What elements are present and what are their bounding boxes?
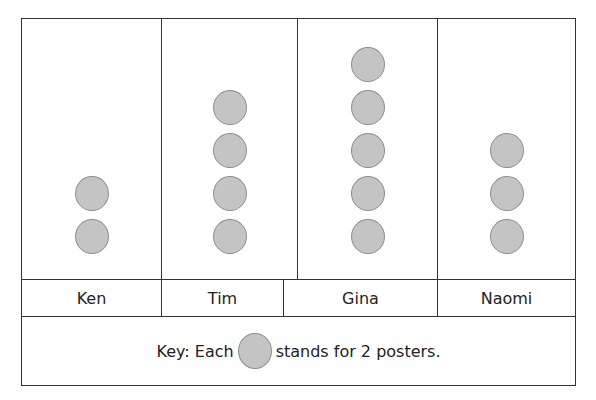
circle-symbol-icon — [351, 219, 385, 254]
circle-symbol-icon — [213, 90, 247, 125]
circle-symbol-icon — [351, 90, 385, 125]
column-naomi — [437, 19, 575, 279]
circle-stack — [298, 47, 437, 254]
circle-symbol-icon — [490, 133, 524, 168]
column-tim — [161, 19, 297, 279]
circle-symbol-icon — [213, 176, 247, 211]
key-prefix: Key: Each — [156, 342, 233, 361]
circle-symbol-icon — [238, 333, 272, 369]
circle-symbol-icon — [490, 219, 524, 254]
name-cell-naomi: Naomi — [437, 280, 575, 316]
circle-symbol-icon — [490, 176, 524, 211]
symbol-row — [22, 19, 575, 280]
circle-stack — [438, 133, 575, 254]
circle-symbol-icon — [213, 133, 247, 168]
key-row: Key: Each stands for 2 posters. — [22, 317, 575, 385]
name-row: Ken Tim Gina Naomi — [22, 280, 575, 317]
name-cell-ken: Ken — [22, 280, 161, 316]
circle-symbol-icon — [75, 176, 109, 211]
column-gina — [297, 19, 437, 279]
circle-symbol-icon — [351, 176, 385, 211]
column-ken — [22, 19, 161, 279]
name-cell-gina: Gina — [283, 280, 437, 316]
circle-stack — [22, 176, 161, 254]
key-suffix: stands for 2 posters. — [276, 342, 441, 361]
circle-symbol-icon — [351, 133, 385, 168]
circle-symbol-icon — [213, 219, 247, 254]
circle-symbol-icon — [75, 219, 109, 254]
circle-symbol-icon — [351, 47, 385, 82]
pictograph-chart: Ken Tim Gina Naomi Key: Each stands for … — [21, 18, 576, 386]
name-cell-tim: Tim — [161, 280, 283, 316]
circle-stack — [162, 90, 297, 254]
